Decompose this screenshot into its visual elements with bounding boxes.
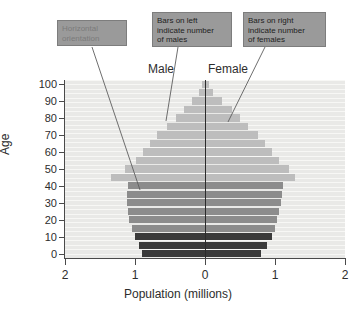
bar-female bbox=[205, 174, 295, 181]
bar-female bbox=[205, 97, 222, 104]
bar-female bbox=[205, 89, 213, 96]
bar-female bbox=[205, 216, 277, 223]
y-axis-tick-label: 0 bbox=[17, 249, 57, 260]
bar-female bbox=[205, 199, 281, 206]
y-axis-tick bbox=[59, 220, 65, 221]
x-axis-tick bbox=[135, 259, 136, 265]
callout-females-line1: Bars on right bbox=[248, 16, 321, 26]
y-axis-tick-label: 100 bbox=[17, 79, 57, 90]
bar-male bbox=[184, 106, 205, 113]
x-axis-tick-label: 1 bbox=[260, 268, 290, 282]
x-axis-tick-label: 2 bbox=[50, 268, 80, 282]
bar-male bbox=[139, 242, 206, 249]
y-axis-tick bbox=[59, 101, 65, 102]
bar-female bbox=[205, 106, 232, 113]
callout-males: Bars on left indicate number of males bbox=[152, 12, 232, 47]
bar-male bbox=[129, 216, 205, 223]
bar-female bbox=[205, 123, 248, 130]
bar-male bbox=[111, 174, 206, 181]
callout-females-line2: indicate number bbox=[248, 26, 321, 36]
plot-area bbox=[65, 80, 345, 258]
y-axis-tick-label: 80 bbox=[17, 113, 57, 124]
bar-male bbox=[167, 123, 206, 130]
bar-female bbox=[205, 157, 279, 164]
y-axis-tick-label: 50 bbox=[17, 164, 57, 175]
x-axis-tick-label: 2 bbox=[330, 268, 356, 282]
bar-male bbox=[125, 165, 206, 172]
y-axis-tick bbox=[59, 169, 65, 170]
x-axis-tick bbox=[345, 259, 346, 265]
bar-male bbox=[143, 148, 205, 155]
callout-females: Bars on right indicate number of females bbox=[243, 12, 326, 47]
bar-female bbox=[205, 140, 265, 147]
bar-female bbox=[205, 191, 282, 198]
female-side-label: Female bbox=[208, 62, 248, 76]
bar-male bbox=[135, 233, 205, 240]
y-axis-tick bbox=[59, 254, 65, 255]
callout-females-line3: of females bbox=[248, 35, 321, 45]
bar-male bbox=[157, 131, 205, 138]
bar-male bbox=[176, 114, 205, 121]
y-axis-tick bbox=[59, 118, 65, 119]
y-axis-tick-label: 30 bbox=[17, 198, 57, 209]
x-axis-tick bbox=[205, 259, 206, 265]
x-axis-title: Population (millions) bbox=[0, 287, 356, 301]
y-axis-tick-label: 20 bbox=[17, 215, 57, 226]
x-axis-tick bbox=[275, 259, 276, 265]
male-side-label: Male bbox=[148, 62, 174, 76]
callout-males-line1: Bars on left bbox=[157, 16, 227, 26]
bar-female bbox=[205, 233, 272, 240]
y-axis-tick-label: 60 bbox=[17, 147, 57, 158]
callout-males-line3: of males bbox=[157, 35, 227, 45]
y-axis-title: Age bbox=[0, 134, 12, 155]
bar-female bbox=[205, 114, 240, 121]
y-axis-tick bbox=[59, 237, 65, 238]
bar-male bbox=[150, 140, 205, 147]
bar-female bbox=[205, 148, 272, 155]
y-axis-tick bbox=[59, 135, 65, 136]
y-axis-tick-label: 40 bbox=[17, 181, 57, 192]
callout-orientation-line2: orientation bbox=[62, 34, 122, 44]
y-axis-tick bbox=[59, 186, 65, 187]
bar-female bbox=[205, 242, 267, 249]
y-axis-tick-label: 90 bbox=[17, 96, 57, 107]
bar-female bbox=[205, 225, 275, 232]
bar-female bbox=[205, 182, 283, 189]
zero-axis-line bbox=[205, 80, 206, 258]
bar-male bbox=[128, 208, 205, 215]
x-axis-tick-label: 1 bbox=[120, 268, 150, 282]
callout-orientation-line1: Horizontal bbox=[62, 24, 122, 34]
y-axis-tick-label: 10 bbox=[17, 232, 57, 243]
bar-male bbox=[127, 191, 205, 198]
x-axis-tick-label: 0 bbox=[190, 268, 220, 282]
y-axis-tick bbox=[59, 203, 65, 204]
callout-orientation: Horizontal orientation bbox=[57, 20, 127, 46]
bar-male bbox=[127, 199, 205, 206]
callout-males-line2: indicate number bbox=[157, 26, 227, 36]
y-axis-tick bbox=[59, 84, 65, 85]
population-pyramid-figure: 1009080706050403020100 21012 Age Populat… bbox=[0, 0, 356, 317]
bar-female bbox=[205, 208, 279, 215]
bar-male bbox=[136, 157, 205, 164]
bar-male bbox=[128, 182, 205, 189]
bar-male bbox=[132, 225, 206, 232]
bar-female bbox=[205, 131, 258, 138]
bar-female bbox=[205, 250, 261, 257]
x-axis-tick bbox=[65, 259, 66, 265]
bar-male bbox=[192, 97, 205, 104]
bar-male bbox=[142, 250, 205, 257]
y-axis-tick bbox=[59, 152, 65, 153]
bar-female bbox=[205, 165, 289, 172]
y-axis-tick-label: 70 bbox=[17, 130, 57, 141]
